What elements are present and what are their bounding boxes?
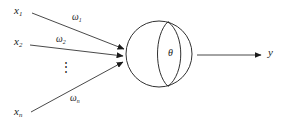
weight-label-wn: ωn xyxy=(70,94,80,105)
output-label-y: y xyxy=(268,47,273,58)
input-subscript-x1: 1 xyxy=(19,10,22,17)
weight-label-w1: ω1 xyxy=(72,13,82,24)
input-arrow-x2 xyxy=(30,45,123,56)
vertical-ellipsis: ⋮ xyxy=(60,61,72,73)
weight-subscript-wn: n xyxy=(77,98,80,104)
input-subscript-x2: 2 xyxy=(19,41,22,48)
weight-label-w2: ω2 xyxy=(56,35,66,46)
input-subscript-xn: n xyxy=(19,111,22,118)
soma-inner-arc xyxy=(158,22,169,87)
input-label-xn: xn xyxy=(14,106,22,119)
input-label-x2: x2 xyxy=(14,36,22,49)
threshold-label: θ xyxy=(168,48,173,58)
neuron-diagram: x1 x2 xn ω1 ω2 ωn ⋮ θ y xyxy=(0,0,290,126)
input-label-x1: x1 xyxy=(14,5,22,18)
weight-base-w1: ω xyxy=(72,12,79,22)
weight-base-wn: ω xyxy=(70,93,77,103)
soma-circle xyxy=(126,21,192,87)
weight-subscript-w2: 2 xyxy=(63,39,66,45)
weight-subscript-w1: 1 xyxy=(79,17,82,23)
soma-group xyxy=(126,21,192,87)
neuron-diagram-canvas xyxy=(0,0,290,126)
weight-base-w2: ω xyxy=(56,34,63,44)
